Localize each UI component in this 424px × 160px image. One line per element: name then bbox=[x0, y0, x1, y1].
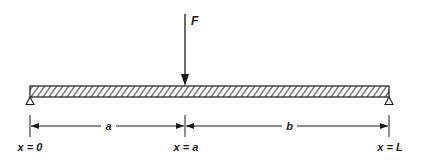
force-label: F bbox=[191, 14, 199, 28]
arrowhead-down-icon bbox=[181, 74, 189, 86]
right-support-triangle-icon bbox=[385, 97, 393, 105]
position-label-xL: x = L bbox=[376, 141, 403, 153]
left-support-triangle-icon bbox=[26, 97, 34, 105]
position-label-x0: x = 0 bbox=[17, 141, 44, 153]
force-arrow bbox=[181, 14, 189, 86]
dimension-a-label: a bbox=[105, 120, 111, 132]
dimension-b-label: b bbox=[286, 120, 293, 132]
beam bbox=[30, 86, 389, 97]
beam-diagram: F a b x = 0 x = a x = L bbox=[0, 0, 424, 160]
position-label-xa: x = a bbox=[173, 141, 199, 153]
